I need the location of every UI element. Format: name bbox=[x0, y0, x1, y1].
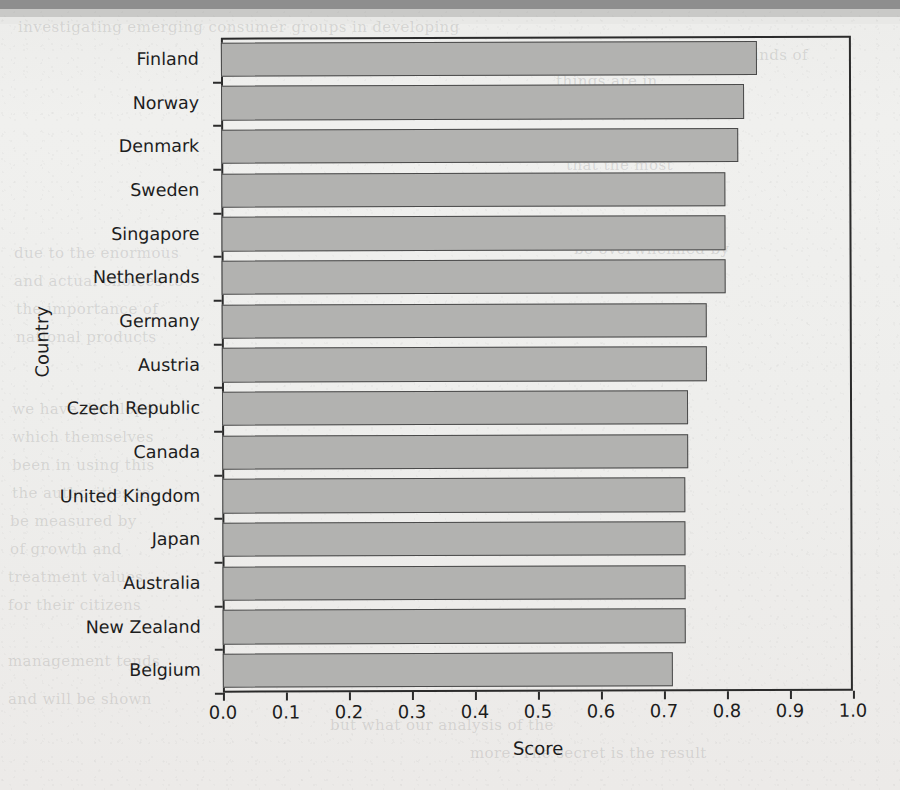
x-tick-label-0.8: 0.8 bbox=[713, 702, 742, 720]
y-tick-label-singapore: Singapore bbox=[111, 225, 199, 243]
bar-sweden bbox=[221, 172, 725, 208]
x-tick-mark bbox=[223, 693, 225, 701]
y-tick-label-denmark: Denmark bbox=[119, 138, 199, 156]
x-tick-label-0.0: 0.0 bbox=[209, 704, 238, 722]
x-tick-label-0.4: 0.4 bbox=[461, 703, 490, 721]
y-tick-label-united-kingdom: United Kingdom bbox=[60, 487, 201, 505]
y-tick-label-netherlands: Netherlands bbox=[93, 269, 200, 287]
bar-norway bbox=[221, 85, 744, 121]
bar-japan bbox=[222, 521, 685, 557]
bar-chart: FinlandNorwayDenmarkSwedenSingaporeNethe… bbox=[0, 0, 900, 790]
y-tick-label-canada: Canada bbox=[134, 444, 201, 462]
bars-layer bbox=[221, 36, 853, 693]
y-tick-mark bbox=[215, 562, 223, 564]
y-tick-mark bbox=[215, 605, 223, 607]
bar-germany bbox=[222, 303, 707, 339]
x-tick-label-0.2: 0.2 bbox=[335, 703, 364, 721]
x-tick-mark bbox=[790, 691, 792, 699]
x-tick-label-0.1: 0.1 bbox=[272, 703, 301, 721]
y-axis-title: Country bbox=[31, 282, 52, 402]
bar-united-kingdom bbox=[222, 478, 685, 514]
y-tick-label-czech-republic: Czech Republic bbox=[67, 400, 200, 418]
figure-plate: FinlandNorwayDenmarkSwedenSingaporeNethe… bbox=[0, 0, 899, 1]
bar-austria bbox=[222, 347, 707, 383]
x-tick-mark bbox=[412, 692, 414, 700]
y-tick-mark bbox=[214, 518, 222, 520]
y-tick-mark bbox=[213, 125, 221, 127]
bar-denmark bbox=[221, 128, 738, 164]
x-tick-label-0.7: 0.7 bbox=[650, 702, 679, 720]
y-tick-label-norway: Norway bbox=[133, 94, 199, 112]
bar-australia bbox=[223, 565, 686, 601]
x-tick-mark bbox=[664, 691, 666, 699]
y-tick-mark bbox=[214, 300, 222, 302]
y-tick-label-austria: Austria bbox=[138, 356, 200, 374]
x-tick-mark bbox=[286, 693, 288, 701]
x-tick-mark bbox=[727, 691, 729, 699]
y-tick-label-finland: Finland bbox=[136, 51, 199, 69]
bar-singapore bbox=[221, 216, 725, 252]
scanned-page: investigating emerging consumer groups i… bbox=[0, 0, 900, 790]
x-tick-mark bbox=[349, 692, 351, 700]
x-tick-label-0.5: 0.5 bbox=[524, 703, 553, 721]
y-tick-mark bbox=[213, 212, 221, 214]
y-tick-label-australia: Australia bbox=[123, 575, 200, 593]
y-tick-label-sweden: Sweden bbox=[130, 182, 199, 200]
bar-czech-republic bbox=[222, 390, 688, 426]
bar-belgium bbox=[223, 652, 674, 687]
y-tick-mark bbox=[214, 431, 222, 433]
x-tick-label-0.6: 0.6 bbox=[587, 702, 616, 720]
bar-finland bbox=[221, 41, 757, 77]
x-tick-label-0.9: 0.9 bbox=[776, 702, 805, 720]
x-tick-mark bbox=[475, 692, 477, 700]
y-tick-label-belgium: Belgium bbox=[129, 662, 201, 680]
y-tick-mark bbox=[213, 169, 221, 171]
x-tick-mark bbox=[853, 691, 855, 699]
y-tick-mark bbox=[213, 81, 221, 83]
y-tick-label-germany: Germany bbox=[119, 313, 199, 331]
y-tick-mark bbox=[215, 649, 223, 651]
y-tick-mark bbox=[214, 256, 222, 258]
x-axis-ticks: 0.00.10.20.30.40.50.60.70.80.91.0 bbox=[223, 691, 853, 733]
y-tick-label-new-zealand: New Zealand bbox=[86, 618, 201, 636]
bar-new-zealand bbox=[223, 609, 686, 645]
bar-canada bbox=[222, 434, 688, 470]
y-tick-mark bbox=[214, 387, 222, 389]
y-tick-mark bbox=[214, 343, 222, 345]
y-tick-mark bbox=[214, 474, 222, 476]
x-axis-title: Score bbox=[223, 737, 853, 760]
y-tick-mark bbox=[215, 693, 223, 695]
x-tick-mark bbox=[601, 692, 603, 700]
x-tick-label-1.0: 1.0 bbox=[839, 702, 868, 720]
y-tick-label-japan: Japan bbox=[152, 531, 201, 549]
x-tick-mark bbox=[538, 692, 540, 700]
x-tick-label-0.3: 0.3 bbox=[398, 703, 427, 721]
bar-netherlands bbox=[222, 259, 726, 295]
